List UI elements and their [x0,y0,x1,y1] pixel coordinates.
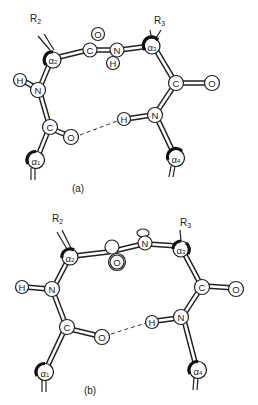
atom-c2-a: C [83,43,97,57]
svg-text:O: O [232,284,239,295]
atom-h3-a: H [118,113,131,126]
atom-n3-b: N [174,310,189,325]
svg-text:H: H [110,58,117,69]
svg-text:N: N [178,312,185,323]
atom-o3-b: O [229,282,244,297]
svg-text:O: O [94,29,101,40]
r2-label-a: R2 [30,13,41,25]
atom-h1-a: H [14,74,27,87]
r3-label-b: R3 [180,217,191,229]
atom-n2-b: N [138,236,152,250]
panel-b: O N α2 α3 C O N [16,213,244,396]
r2-label-b: R2 [52,213,63,225]
atom-c3-a: C [169,76,184,91]
atom-alpha4-b: α4 [189,361,207,378]
atom-n2-a: N [110,43,124,57]
atom-n3-a: N [148,108,163,123]
atom-h3-b: H [146,316,159,329]
atom-h2-a: H [107,57,120,70]
atom-alpha3-b: α3 [173,241,189,257]
svg-text:H: H [149,317,156,328]
svg-text:N: N [114,45,121,56]
atom-o3-a: O [205,76,220,91]
svg-text:N: N [35,85,42,96]
svg-text:N: N [142,238,149,249]
atom-n1-b: N [45,282,60,297]
atom-alpha3-a: α3 [143,37,160,54]
atom-alpha4-a: α4 [167,148,184,166]
atom-h1-b: H [16,281,29,294]
beta-turn-diagram: O C H N α2 α3 C O [0,0,258,405]
svg-text:H: H [121,114,128,125]
atom-o2-a: O [92,28,105,41]
svg-text:O: O [67,132,74,143]
hydrogen-bond-a [80,121,117,135]
r3-label-a: R3 [154,15,165,27]
svg-text:N: N [152,110,159,121]
atom-alpha1-b: α1 [36,363,54,380]
svg-text:N: N [49,284,56,295]
caption-a: (a) [72,183,84,194]
svg-text:H: H [19,282,26,293]
svg-text:C: C [47,122,54,133]
svg-text:C: C [199,282,206,293]
atom-o1-b: O [95,330,110,345]
svg-text:C: C [64,322,71,333]
svg-text:C: C [173,78,180,89]
atom-o1-a: O [64,130,79,145]
atom-n1-a: N [31,83,46,98]
caption-b: (b) [84,385,96,396]
svg-text:O: O [98,332,105,343]
atom-alpha2-b: α2 [62,249,78,265]
svg-text:O: O [208,78,215,89]
atom-o2-b: O [109,254,126,271]
atom-c2-b [105,240,119,254]
svg-text:C: C [87,45,94,56]
atom-c3-b: C [195,280,210,295]
svg-text:O: O [113,257,120,268]
panel-a: O C H N α2 α3 C O [14,13,220,194]
atom-alpha2-a: α2 [44,52,61,68]
atom-c1-b: C [60,320,75,335]
svg-text:H: H [17,75,24,86]
atom-c1-a: C [43,120,58,135]
atom-alpha1-a: α1 [27,151,45,168]
hydrogen-bond-b [111,323,146,334]
